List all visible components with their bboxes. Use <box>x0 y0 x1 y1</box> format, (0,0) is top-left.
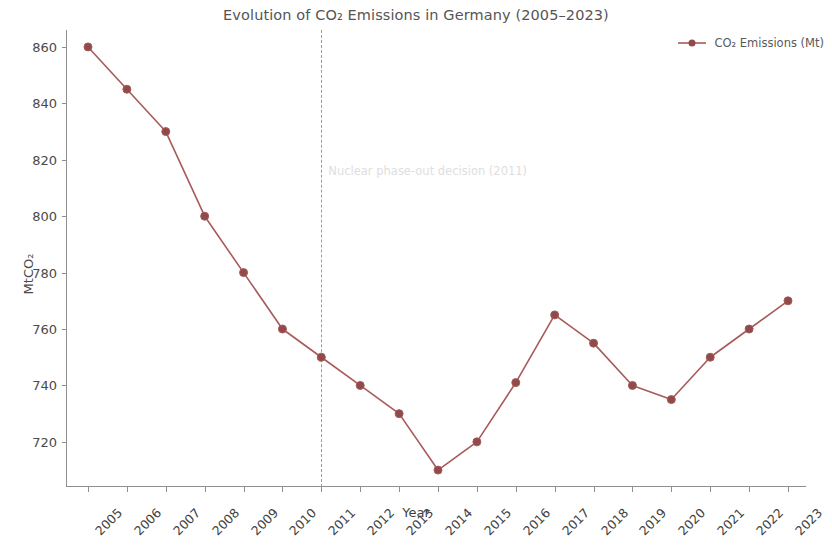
data-point-2017 <box>551 311 559 319</box>
plot-area: 720740760780800820840860 200520062007200… <box>66 30 806 487</box>
data-point-2010 <box>278 325 286 333</box>
data-point-2008 <box>201 212 209 220</box>
x-tick-mark-2013 <box>399 487 400 492</box>
data-point-2018 <box>590 339 598 347</box>
x-tick-mark-2012 <box>360 487 361 492</box>
x-tick-mark-2016 <box>516 487 517 492</box>
x-tick-mark-2007 <box>166 487 167 492</box>
x-tick-mark-2009 <box>244 487 245 492</box>
data-point-2021 <box>706 353 714 361</box>
x-tick-mark-2011 <box>321 487 322 492</box>
chart-legend: CO₂ Emissions (Mt) <box>677 36 824 50</box>
data-point-2023 <box>784 297 792 305</box>
legend-line-marker-icon <box>677 37 707 49</box>
x-tick-mark-2022 <box>749 487 750 492</box>
data-point-2005 <box>84 43 92 51</box>
data-point-2015 <box>473 438 481 446</box>
x-tick-mark-2018 <box>594 487 595 492</box>
x-tick-mark-2015 <box>477 487 478 492</box>
y-tick-label-860: 860 <box>32 39 57 54</box>
y-tick-label-820: 820 <box>32 152 57 167</box>
x-tick-mark-2021 <box>710 487 711 492</box>
data-point-2013 <box>395 410 403 418</box>
x-tick-mark-2023 <box>788 487 789 492</box>
x-tick-mark-2019 <box>632 487 633 492</box>
data-point-2007 <box>162 128 170 136</box>
legend-label-co2-emissions: CO₂ Emissions (Mt) <box>714 36 824 50</box>
data-point-2011 <box>317 353 325 361</box>
x-tick-mark-2020 <box>671 487 672 492</box>
x-tick-mark-2010 <box>282 487 283 492</box>
data-point-2009 <box>240 269 248 277</box>
y-tick-label-740: 740 <box>32 378 57 393</box>
data-point-2022 <box>745 325 753 333</box>
data-point-2006 <box>123 85 131 93</box>
x-tick-mark-2005 <box>88 487 89 492</box>
x-tick-mark-2008 <box>205 487 206 492</box>
x-tick-mark-2006 <box>127 487 128 492</box>
data-point-2020 <box>667 396 675 404</box>
y-tick-label-840: 840 <box>32 96 57 111</box>
y-tick-label-760: 760 <box>32 322 57 337</box>
series-plot <box>66 30 806 487</box>
chart-title: Evolution of CO₂ Emissions in Germany (2… <box>0 7 832 23</box>
data-point-2016 <box>512 379 520 387</box>
y-tick-label-720: 720 <box>32 434 57 449</box>
y-tick-label-780: 780 <box>32 265 57 280</box>
y-tick-label-800: 800 <box>32 209 57 224</box>
data-point-2012 <box>356 381 364 389</box>
chart-figure: Evolution of CO₂ Emissions in Germany (2… <box>0 0 832 548</box>
series-line-co2-emissions <box>88 47 788 470</box>
x-tick-mark-2017 <box>555 487 556 492</box>
data-point-2019 <box>628 381 636 389</box>
x-axis-label: Year <box>0 505 832 520</box>
data-point-2014 <box>434 466 442 474</box>
x-tick-mark-2014 <box>438 487 439 492</box>
